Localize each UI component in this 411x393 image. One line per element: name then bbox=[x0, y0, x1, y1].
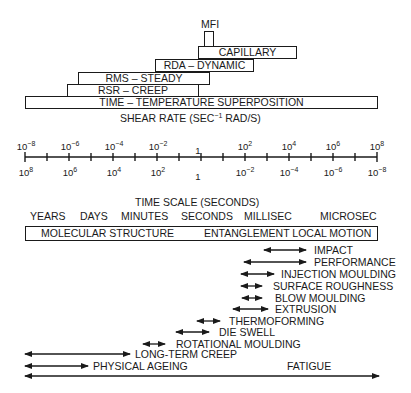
injection-moulding-label: INJECTION MOULDING bbox=[281, 269, 396, 280]
physical-ageing-label: PHYSICAL AGEING bbox=[93, 361, 188, 372]
blow-moulding-label: BLOW MOULDING bbox=[275, 293, 365, 304]
molecular-structure-label: MOLECULAR STRUCTURE bbox=[41, 228, 174, 239]
time-unit-years: YEARS bbox=[30, 211, 66, 222]
time-unit-minutes: MINUTES bbox=[121, 211, 168, 222]
fatigue-label: FATIGUE bbox=[287, 361, 331, 372]
time-unit-days: DAYS bbox=[80, 211, 108, 222]
time-unit-microsec: MICROSEC bbox=[320, 211, 377, 222]
thermoforming-label: THERMOFORMING bbox=[229, 316, 324, 327]
extrusion-label: EXTRUSION bbox=[275, 304, 336, 315]
die-swell-label: DIE SWELL bbox=[219, 327, 275, 338]
time-unit-seconds: SECONDS bbox=[181, 211, 233, 222]
time-scale-title: TIME SCALE (SECONDS) bbox=[135, 197, 259, 208]
entanglement-label: ENTANGLEMENT LOCAL MOTION bbox=[204, 228, 371, 239]
impact-label: IMPACT bbox=[314, 245, 353, 256]
long-term-creep-label: LONG-TERM CREEP bbox=[135, 349, 237, 360]
surface-roughness-label: SURFACE ROUGHNESS bbox=[273, 281, 393, 292]
time-unit-millisec: MILLISEC bbox=[244, 211, 292, 222]
performance-label: PERFORMANCE bbox=[314, 257, 396, 268]
structure-box: MOLECULAR STRUCTURE ENTANGLEMENT LOCAL M… bbox=[25, 226, 378, 241]
shear-rate-axis bbox=[25, 152, 377, 162]
